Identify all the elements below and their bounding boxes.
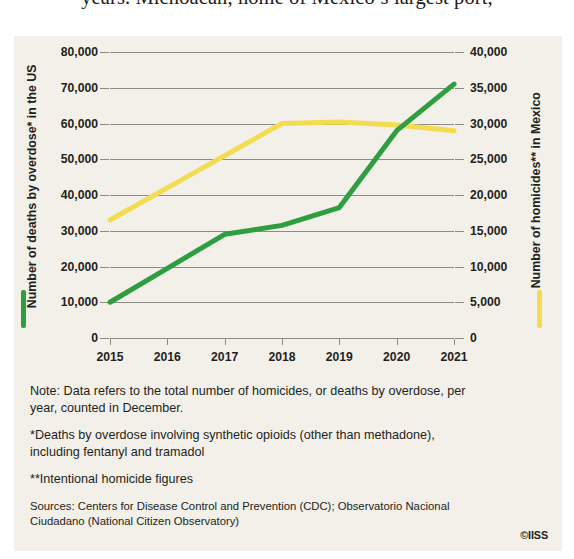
note-general: Note: Data refers to the total number of… xyxy=(30,383,480,416)
left-axis-tick xyxy=(100,195,109,196)
note-double-asterisk-homicide: **Intentional homicide figures xyxy=(30,471,480,488)
x-axis-tick xyxy=(225,339,226,345)
right-axis-tick xyxy=(455,302,464,303)
note-sources: Sources: Centers for Disease Control and… xyxy=(30,499,480,529)
note-asterisk-overdose: *Deaths by overdose involving synthetic … xyxy=(30,427,480,460)
left-axis-tick-label: 50,000 xyxy=(28,153,98,165)
right-axis-tick-label: 20,000 xyxy=(470,189,540,201)
chart-notes: Note: Data refers to the total number of… xyxy=(30,383,480,529)
right-axis-tick-label: 10,000 xyxy=(470,261,540,273)
left-axis-tick-label: 60,000 xyxy=(28,118,98,130)
right-axis-tick-label: 35,000 xyxy=(470,82,540,94)
left-axis-tick xyxy=(100,231,109,232)
right-axis-tick xyxy=(455,195,464,196)
x-axis-tick xyxy=(397,339,398,345)
left-axis-tick xyxy=(100,267,109,268)
left-axis-tick xyxy=(100,124,109,125)
left-axis-tick-label: 70,000 xyxy=(28,82,98,94)
left-axis-tick-label: 0 xyxy=(28,332,98,344)
x-axis-tick-label: 2016 xyxy=(137,350,197,364)
x-axis-tick xyxy=(282,339,283,345)
chart-figure: Number of deaths by overdose* in the US … xyxy=(14,36,562,551)
plot-canvas: 010,00020,00030,00040,00050,00060,00070,… xyxy=(110,52,454,338)
left-axis-tick-label: 20,000 xyxy=(28,261,98,273)
x-axis-tick xyxy=(454,339,455,345)
left-axis-tick xyxy=(100,338,109,339)
right-axis-tick-label: 5,000 xyxy=(470,296,540,308)
left-axis-tick-label: 10,000 xyxy=(28,296,98,308)
series-lines xyxy=(110,52,454,338)
left-axis-tick xyxy=(100,88,109,89)
x-axis-tick xyxy=(167,339,168,345)
right-axis-tick xyxy=(455,124,464,125)
right-axis-tick-label: 25,000 xyxy=(470,153,540,165)
right-axis-tick xyxy=(455,338,464,339)
x-axis-tick-label: 2017 xyxy=(195,350,255,364)
right-axis-tick-label: 30,000 xyxy=(470,118,540,130)
right-axis-tick xyxy=(455,231,464,232)
left-axis-tick xyxy=(100,159,109,160)
x-axis-tick-label: 2018 xyxy=(252,350,312,364)
left-axis-tick-label: 80,000 xyxy=(28,46,98,58)
left-axis-tick-label: 40,000 xyxy=(28,189,98,201)
right-axis-tick xyxy=(455,267,464,268)
right-axis-tick xyxy=(455,88,464,89)
left-axis-tick-label: 30,000 xyxy=(28,225,98,237)
copyright-credit: ©IISS xyxy=(520,529,548,541)
x-axis-tick-label: 2015 xyxy=(80,350,140,364)
right-axis-tick xyxy=(455,52,464,53)
line-mexico-homicides xyxy=(110,122,454,220)
right-axis-tick-label: 0 xyxy=(470,332,540,344)
legend-marker-us-overdose-deaths xyxy=(21,290,26,328)
left-axis-tick xyxy=(100,52,109,53)
right-axis-tick-label: 40,000 xyxy=(470,46,540,58)
x-axis-tick-label: 2019 xyxy=(309,350,369,364)
x-axis-tick xyxy=(339,339,340,345)
x-axis-tick-label: 2020 xyxy=(367,350,427,364)
page-body-text-cutoff: years. Michoacán, home of Mexico’s large… xyxy=(0,0,574,14)
right-axis-tick xyxy=(455,159,464,160)
right-axis-tick-label: 15,000 xyxy=(470,225,540,237)
x-axis-tick xyxy=(110,339,111,345)
chart-plot-region: Number of deaths by overdose* in the US … xyxy=(14,36,562,366)
x-axis-tick-label: 2021 xyxy=(424,350,484,364)
